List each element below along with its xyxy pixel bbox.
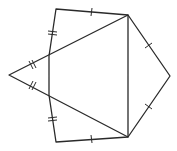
triangle <box>9 15 128 137</box>
geometry-diagram <box>0 0 177 151</box>
double-tick-marks <box>29 31 57 121</box>
outer-outline <box>49 9 170 142</box>
